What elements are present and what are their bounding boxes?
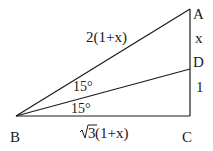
vertex-label-d: D <box>193 54 204 70</box>
segment-ab <box>16 9 190 116</box>
side-label-dc: 1 <box>196 79 204 95</box>
bc-multiplier: (1+x) <box>95 125 128 142</box>
vertex-label-a: A <box>193 6 204 22</box>
vertex-label-b: B <box>10 129 20 145</box>
vertex-label-c: C <box>182 129 192 145</box>
side-label-ad: x <box>195 30 203 46</box>
segment-bd <box>16 69 190 116</box>
triangle-diagram: A D B C 2(1+x) x 1 3 (1+x) 15° 15° <box>0 0 213 151</box>
side-label-bc: 3 (1+x) <box>80 125 128 142</box>
side-label-ab: 2(1+x) <box>86 29 127 46</box>
angle-label-abd: 15° <box>73 79 93 94</box>
angle-label-dbc: 15° <box>71 101 91 116</box>
